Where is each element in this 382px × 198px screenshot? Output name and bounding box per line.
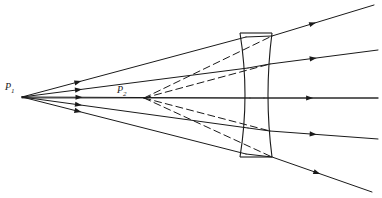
caption-remnant xyxy=(0,189,382,198)
internal-ray-4 xyxy=(248,128,270,131)
virtual-ray-4 xyxy=(144,98,270,131)
figure-root: P1 P2 xyxy=(0,0,382,198)
incident-ray-1 xyxy=(22,37,246,97)
incident-ray-5 xyxy=(22,97,246,154)
internal-ray-2 xyxy=(248,64,270,68)
image-point-subscript: 2 xyxy=(123,90,127,98)
virtual-ray-2 xyxy=(144,64,270,98)
refracted-ray-1 xyxy=(272,5,374,36)
lens-right-surface xyxy=(268,33,272,157)
object-point-subscript: 1 xyxy=(11,87,15,95)
refracted-ray-1-arrowhead xyxy=(309,22,316,27)
ray-diagram-canvas xyxy=(0,0,382,198)
incident-ray-3-arrowhead xyxy=(75,95,82,100)
incident-ray-1-arrowhead xyxy=(74,80,81,85)
refracted-ray-2-arrowhead xyxy=(309,56,316,61)
image-point-label: P2 xyxy=(117,85,127,98)
incident-rays-group xyxy=(22,37,250,154)
incident-ray-2 xyxy=(22,68,248,97)
incident-ray-4-arrowhead xyxy=(75,102,82,107)
refracted-ray-2 xyxy=(270,50,378,64)
lens-left-surface xyxy=(240,33,245,157)
incident-ray-4 xyxy=(22,97,248,128)
virtual-ray-5 xyxy=(144,98,272,157)
refracted-ray-3-arrowhead xyxy=(306,95,313,100)
incident-ray-5-arrowhead xyxy=(74,108,81,113)
refracted-rays-group xyxy=(264,5,378,192)
virtual-rays-group xyxy=(144,36,272,157)
biconcave-lens xyxy=(240,33,272,157)
internal-ray-1 xyxy=(246,36,272,37)
refracted-ray-5 xyxy=(272,157,372,192)
object-point-label: P1 xyxy=(5,82,15,95)
refracted-ray-5-arrowhead xyxy=(313,169,320,174)
incident-ray-2-arrowhead xyxy=(75,88,82,93)
refracted-ray-4 xyxy=(270,131,378,139)
